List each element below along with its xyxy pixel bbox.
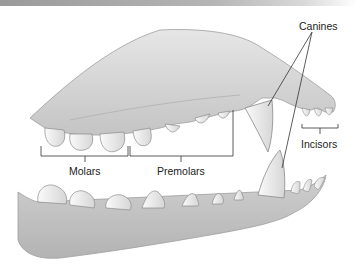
incisors-label: Incisors	[301, 138, 337, 150]
molars-label: Molars	[69, 165, 101, 177]
canines-label: Canines	[299, 20, 338, 32]
premolars-label: Premolars	[157, 165, 205, 177]
